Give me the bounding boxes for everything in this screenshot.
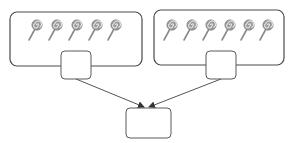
right-count-box[interactable] xyxy=(206,51,236,79)
left-count-box[interactable] xyxy=(61,51,91,79)
left-group xyxy=(10,12,142,79)
left-arrow xyxy=(76,79,144,107)
right-group xyxy=(154,10,284,79)
right-arrow xyxy=(149,79,221,107)
total-box[interactable] xyxy=(126,108,171,138)
addition-diagram xyxy=(0,0,290,143)
